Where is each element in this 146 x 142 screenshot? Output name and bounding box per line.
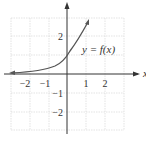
y-tick-neg1: −1: [52, 88, 63, 99]
x-axis-arrow-icon: [133, 72, 140, 77]
x-axis-label: x: [142, 67, 146, 79]
x-tick-2: 2: [103, 78, 108, 89]
x-tick-1: 1: [84, 78, 89, 89]
x-tick-neg1: −1: [40, 78, 51, 89]
y-tick-2: 2: [58, 31, 63, 42]
y-axis-arrow-icon: [65, 2, 70, 9]
graph: −2 −1 1 2 2 −1 −2 y = f(x) x: [0, 0, 146, 142]
x-tick-neg2: −2: [20, 78, 31, 89]
curve-label: y = f(x): [81, 43, 115, 56]
curve-f: [13, 22, 88, 73]
y-tick-neg2: −2: [52, 107, 63, 118]
axes: [4, 6, 138, 134]
